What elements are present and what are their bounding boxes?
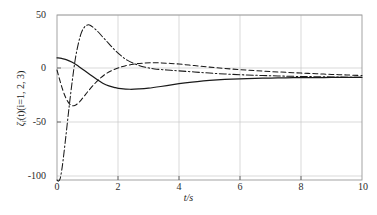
x-axis-label: t/s	[0, 192, 377, 203]
y-axis-label-subscript: i	[19, 120, 28, 122]
y-axis-label: ζi(t)(i=1, 2, 3)	[15, 44, 28, 154]
x-tick-label-0: 0	[47, 181, 67, 192]
chart-figure: 50 0 -50 -100 0 2 4 6 8 10 ζi(t)(i=1, 2,…	[0, 0, 377, 215]
x-tick-label-10: 10	[352, 181, 374, 192]
curve-3-dashdot	[57, 25, 362, 181]
y-axis-label-symbol: ζ	[15, 122, 26, 126]
grid-lines	[57, 15, 362, 180]
y-tick-label-minus100: -100	[4, 170, 46, 181]
curve-2-dashed	[57, 63, 362, 106]
y-axis-label-rest: (t)(i=1, 2, 3)	[15, 71, 26, 121]
x-tick-label-6: 6	[230, 181, 250, 192]
x-tick-label-4: 4	[169, 181, 189, 192]
data-curves	[57, 25, 362, 181]
x-tick-label-2: 2	[108, 181, 128, 192]
axes-frame	[57, 15, 362, 180]
x-tick-label-8: 8	[291, 181, 311, 192]
y-tick-label-50: 50	[14, 9, 46, 20]
